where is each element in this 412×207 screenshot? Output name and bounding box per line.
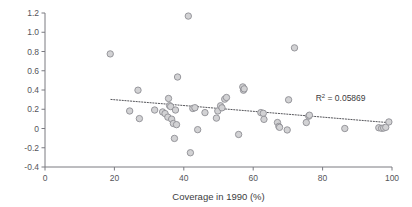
data-point [260, 110, 266, 116]
data-point [303, 119, 309, 125]
data-point [261, 116, 267, 122]
y-tick-label: 1.0 [27, 27, 39, 37]
y-tick-label: 0 [34, 124, 39, 134]
y-tick-label: -0.4 [24, 162, 39, 172]
data-point [171, 135, 177, 141]
data-point [136, 115, 142, 121]
x-tick-label: 60 [248, 173, 258, 183]
data-point [172, 107, 178, 113]
x-axis-title-text: Coverage in 1990 (%) [172, 191, 264, 202]
y-tick-label: 0.2 [27, 104, 39, 114]
y-tick-label: 0.4 [27, 85, 39, 95]
x-tick-label: 20 [110, 173, 120, 183]
data-point [174, 74, 180, 80]
data-point [276, 124, 282, 130]
data-point [126, 108, 132, 114]
data-point [284, 127, 290, 133]
data-point [173, 121, 179, 127]
scatter-chart: -0.4-0.200.20.40.60.81.01.2 020406080100… [0, 0, 412, 207]
x-tick-label: 80 [318, 173, 328, 183]
data-point [151, 107, 157, 113]
data-point [107, 51, 113, 57]
data-point [213, 115, 219, 121]
y-tick-label: 0.8 [27, 47, 39, 57]
r-squared-value: = 0.05869 [325, 93, 366, 103]
data-point [192, 105, 198, 111]
x-tick-label: 100 [385, 173, 399, 183]
y-tick-label: 0.6 [27, 66, 39, 76]
x-axis-title: Coverage in 1990 (%) [172, 191, 264, 202]
x-tick-label: 40 [179, 173, 189, 183]
data-point [165, 95, 171, 101]
y-tick-label: 1.2 [27, 8, 39, 18]
plot-background [0, 0, 412, 207]
data-point [194, 126, 200, 132]
data-point [202, 109, 208, 115]
y-axis-ticks: -0.4-0.200.20.40.60.81.01.2 [24, 8, 45, 172]
data-point [187, 150, 193, 156]
data-point [306, 112, 312, 118]
y-tick-label: -0.2 [24, 143, 39, 153]
x-tick-label: 0 [43, 173, 48, 183]
chart-canvas: -0.4-0.200.20.40.60.81.01.2 020406080100… [0, 0, 412, 207]
data-point [285, 97, 291, 103]
data-point [135, 87, 141, 93]
data-point [291, 45, 297, 51]
data-point [342, 125, 348, 131]
data-point [241, 86, 247, 92]
data-point [185, 13, 191, 19]
data-point [386, 119, 392, 125]
data-point [235, 131, 241, 137]
data-point [219, 105, 225, 111]
data-point [223, 94, 229, 100]
